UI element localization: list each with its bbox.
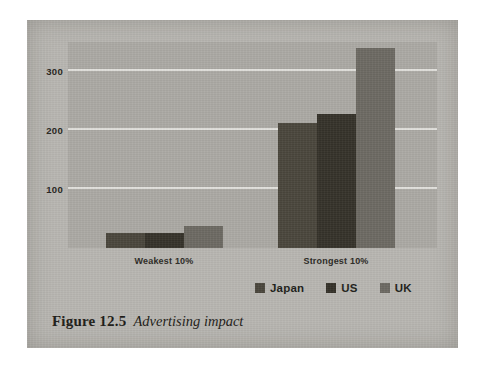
bar-uk-weakest [184,226,223,248]
caption-figure-number: Figure 12.5 [52,313,126,329]
chart-legend: JapanUSUK [255,282,412,294]
chart-plot-area [68,42,437,248]
legend-label-japan: Japan [270,282,304,294]
bar-uk-strongest [356,48,395,248]
legend-swatch-uk-icon [380,283,390,293]
x-axis-label-strongest: Strongest 10% [303,256,368,266]
bar-japan-weakest [106,233,145,248]
y-tick-label-100: 100 [46,184,63,195]
bar-us-strongest [317,114,356,248]
legend-item-us: US [326,282,357,294]
legend-label-uk: UK [395,282,412,294]
legend-label-us: US [341,282,357,294]
legend-item-uk: UK [380,282,412,294]
legend-swatch-japan-icon [255,283,265,293]
legend-swatch-us-icon [326,283,336,293]
y-axis-tick-labels: 100200300 [27,42,63,248]
legend-item-japan: Japan [255,282,304,294]
y-tick-label-200: 200 [46,125,63,136]
bar-japan-strongest [278,123,317,248]
figure-card: 100200300 Weakest 10%Strongest 10% Japan… [27,20,458,348]
caption-title-text: Advertising impact [133,313,243,329]
bar-us-weakest [145,233,184,248]
x-axis-label-weakest: Weakest 10% [134,256,193,266]
figure-caption: Figure 12.5Advertising impact [52,312,243,330]
y-tick-label-300: 300 [46,66,63,77]
